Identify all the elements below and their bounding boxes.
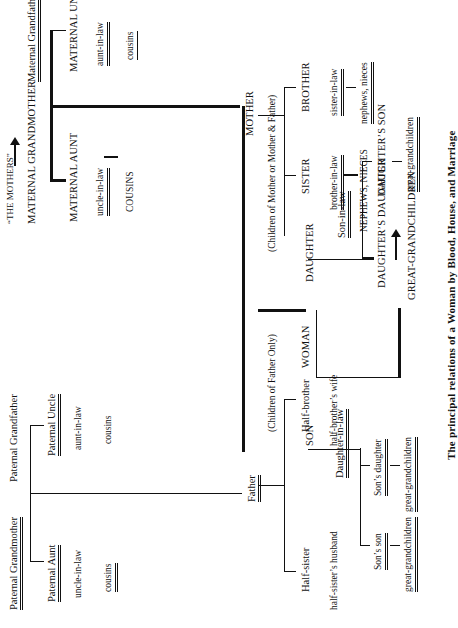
sons-son-children-label: great-grandchildren: [404, 517, 418, 592]
maternal-uncle-drop: [50, 30, 66, 31]
daughter-in-law-label: Daughter-in-law: [334, 409, 349, 478]
the-mothers-arrow: [10, 136, 20, 166]
maternal-aunt-children-label: COUSINS: [126, 171, 136, 212]
paternal-uncle-label: Paternal Uncle: [46, 394, 61, 456]
maternal-aunt-children-bar: [104, 156, 118, 158]
paternal-aunt-label: Paternal Aunt: [46, 545, 61, 602]
paternal-grandfather-label: Paternal Grandfather: [8, 394, 19, 482]
daughters-daughter-children-label: GREAT-GRANDCHILDREN: [406, 171, 417, 300]
sons-daughter-children-tick: [390, 465, 400, 466]
maternal-aunt-drop: [50, 180, 66, 183]
sons-son-label: Son’s son: [374, 533, 388, 570]
great-grandchildren-arrow: [392, 226, 402, 260]
sons-daughter-drop: [360, 465, 370, 466]
children-of-mother-or-both-annotation: (Children of Mother or Mother & Father): [268, 95, 278, 252]
woman-box-bottom: [398, 308, 401, 378]
siblings-trunk: [258, 115, 284, 116]
brother-drop: [284, 87, 296, 88]
paternal-grandparents-bar: [30, 426, 31, 562]
sister-drop: [284, 175, 296, 176]
maternal-aunt-label: MATERNAL AUNT: [68, 133, 79, 222]
son-label: SON: [304, 425, 315, 446]
brother-children-label: nephews, nieces: [360, 62, 374, 124]
father-trunk: [30, 493, 242, 494]
sister-children-tick: [344, 174, 358, 176]
daughters-son-drop: [362, 161, 372, 162]
paternal-grandmother-label: Paternal Grandmother: [8, 517, 23, 610]
father-label: Father: [246, 475, 261, 502]
half-sister-spouse-label: half-sister’s husband: [330, 531, 340, 610]
brother-spouse-label: sister-in-law: [330, 69, 344, 116]
paternal-aunt-drop: [30, 561, 44, 562]
half-brother-drop: [284, 399, 296, 400]
daughter-trunk: [308, 259, 362, 260]
son-children-bar: [360, 448, 361, 546]
mother-trunk: [50, 106, 240, 109]
maternal-grandfather-label: Maternal Grandfather: [26, 0, 41, 82]
daughters-daughter-drop: [362, 258, 374, 261]
woman-trunk: [258, 310, 306, 313]
daughter-children-bar: [362, 162, 363, 260]
chart-title: The principal relations of a Woman by Bl…: [446, 130, 458, 460]
brother-children-tick: [346, 87, 356, 88]
brother-label: BROTHER: [300, 62, 311, 112]
half-siblings-bar: [284, 400, 285, 572]
sister-label: SISTER: [300, 158, 311, 194]
mother-label: MOTHER: [244, 91, 255, 136]
son-in-law-label: Son-in-law: [336, 191, 351, 238]
daughters-daughter-label: DAUGHTER’S DAUGHTER: [376, 159, 387, 288]
children-of-father-only-annotation: (Children of Father Only): [268, 334, 278, 432]
sons-daughter-label: Son’s daughter: [374, 439, 388, 496]
sons-son-children-tick: [390, 545, 400, 546]
maternal-uncle-label: MATERNAL UNCLE: [68, 0, 79, 72]
maternal-uncle-children-label: cousins: [126, 32, 138, 61]
maternal-aunt-spouse-label: uncle-in-law: [96, 168, 110, 216]
daughter-label: DAUGHTER: [304, 223, 315, 282]
half-siblings-trunk: [258, 485, 284, 486]
sons-daughter-children-label: great-grandchildren: [404, 437, 418, 512]
paternal-aunt-spouse-label: uncle-in-law: [74, 550, 84, 598]
paternal-uncle-drop: [30, 425, 44, 426]
half-sister-label: Half-sister: [300, 548, 311, 592]
woman-box-left: [316, 310, 317, 378]
half-sister-drop: [284, 571, 296, 572]
parents-marriage-bar: [242, 106, 245, 452]
maternal-grandmother-label: MATERNAL GRANDMOTHER: [26, 81, 37, 224]
maternal-uncle-spouse-label: aunt-in-law: [96, 22, 110, 66]
paternal-uncle-spouse-label: aunt-in-law: [74, 406, 84, 450]
sons-son-drop: [360, 545, 370, 546]
son-trunk: [308, 449, 360, 450]
woman-box-top: [316, 377, 400, 378]
daughters-son-children-tick: [392, 161, 402, 162]
siblings-bar: [284, 88, 285, 236]
woman-label: WOMAN: [300, 326, 311, 369]
paternal-aunt-children-label: cousins: [104, 564, 118, 593]
paternal-uncle-children-label: cousins: [104, 416, 114, 445]
